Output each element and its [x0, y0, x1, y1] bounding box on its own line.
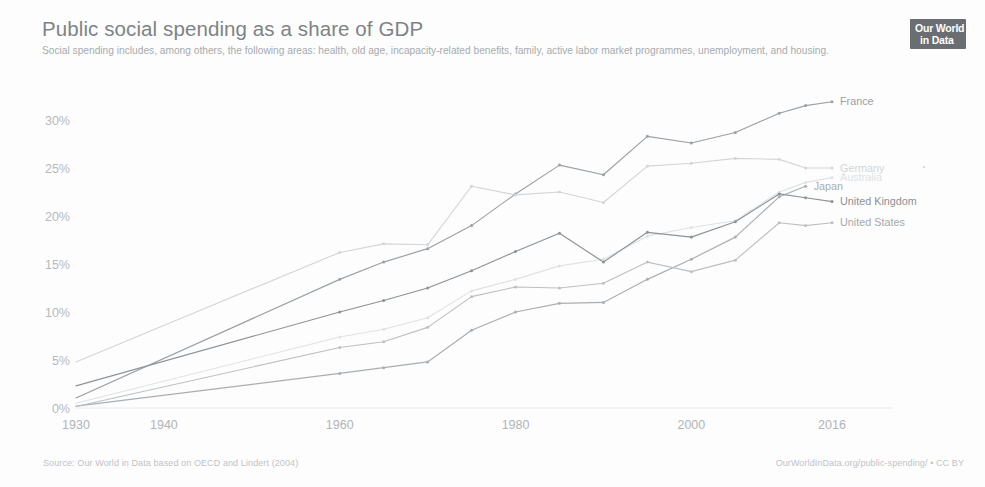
series-label-united-states[interactable]: United States [840, 216, 905, 228]
data-point-marker[interactable] [804, 224, 807, 227]
data-point-marker[interactable] [558, 264, 561, 267]
data-point-marker[interactable] [602, 258, 605, 261]
data-point-marker[interactable] [338, 251, 341, 254]
data-point-marker[interactable] [778, 192, 781, 195]
series-line-france[interactable] [76, 102, 832, 398]
data-point-marker[interactable] [804, 185, 807, 188]
data-point-marker[interactable] [778, 112, 781, 115]
data-point-marker[interactable] [426, 247, 429, 250]
data-point-marker[interactable] [778, 158, 781, 161]
data-point-marker[interactable] [646, 261, 649, 264]
data-point-marker[interactable] [602, 201, 605, 204]
data-point-marker[interactable] [470, 224, 473, 227]
data-point-marker[interactable] [382, 261, 385, 264]
data-point-marker[interactable] [558, 232, 561, 235]
data-point-marker[interactable] [382, 328, 385, 331]
data-point-marker[interactable] [831, 221, 834, 224]
series-line-japan[interactable] [76, 186, 806, 406]
x-axis-tick-label: 1940 [150, 418, 178, 432]
y-axis-tick-label: 25% [45, 162, 70, 176]
data-point-marker[interactable] [831, 200, 834, 203]
data-point-marker[interactable] [426, 326, 429, 329]
data-point-marker[interactable] [690, 226, 693, 229]
data-point-marker[interactable] [804, 167, 807, 170]
data-point-marker[interactable] [804, 104, 807, 107]
x-axis-tick-label: 1960 [326, 418, 354, 432]
data-point-marker[interactable] [426, 287, 429, 290]
x-axis: 193019401960198020002016 [62, 418, 846, 432]
data-point-marker[interactable] [734, 236, 737, 239]
y-axis-tick-label: 5% [52, 354, 70, 368]
series-line-germany[interactable] [76, 158, 832, 362]
series-label-germany[interactable]: Germany [840, 162, 885, 174]
data-point-marker[interactable] [338, 346, 341, 349]
x-axis-tick-label: 1980 [502, 418, 530, 432]
data-point-marker[interactable] [470, 269, 473, 272]
data-point-marker[interactable] [690, 236, 693, 239]
data-point-marker[interactable] [831, 167, 834, 170]
data-point-marker[interactable] [338, 278, 341, 281]
data-point-marker[interactable] [426, 243, 429, 246]
data-point-marker[interactable] [734, 157, 737, 160]
data-point-marker[interactable] [382, 299, 385, 302]
data-point-marker[interactable] [690, 258, 693, 261]
data-point-marker[interactable] [602, 173, 605, 176]
data-point-marker[interactable] [426, 360, 429, 363]
data-point-marker[interactable] [338, 335, 341, 338]
y-axis-tick-label: 30% [45, 114, 70, 128]
x-axis-tick-label: 1930 [62, 418, 90, 432]
data-point-marker[interactable] [426, 316, 429, 319]
data-point-marker[interactable] [690, 270, 693, 273]
data-point-marker[interactable] [831, 100, 834, 103]
series-line-australia[interactable] [76, 178, 832, 404]
data-point-marker[interactable] [804, 181, 807, 184]
data-point-marker[interactable] [646, 135, 649, 138]
data-point-marker[interactable] [734, 220, 737, 223]
series-line-united-kingdom[interactable] [76, 194, 832, 386]
chart-plot-area[interactable]: 0%5%10%15%20%25%30% 19301940196019802000… [0, 0, 985, 487]
data-point-marker[interactable] [646, 235, 649, 238]
data-point-marker[interactable] [690, 142, 693, 145]
data-point-marker[interactable] [470, 329, 473, 332]
data-point-marker[interactable] [778, 221, 781, 224]
data-point-marker[interactable] [382, 340, 385, 343]
line-chart-svg: 0%5%10%15%20%25%30% 19301940196019802000… [0, 0, 985, 487]
data-point-marker[interactable] [558, 164, 561, 167]
data-point-marker[interactable] [804, 196, 807, 199]
data-point-marker[interactable] [646, 165, 649, 168]
series-label-japan[interactable]: Japan [814, 180, 843, 192]
data-point-marker[interactable] [646, 231, 649, 234]
data-point-marker[interactable] [514, 250, 517, 253]
data-point-marker[interactable] [646, 278, 649, 281]
data-point-marker[interactable] [778, 195, 781, 198]
data-point-marker[interactable] [831, 176, 834, 179]
chart-page: Public social spending as a share of GDP… [0, 0, 985, 487]
data-point-marker[interactable] [514, 311, 517, 314]
data-point-marker[interactable] [690, 162, 693, 165]
data-point-marker[interactable] [734, 131, 737, 134]
data-point-marker[interactable] [470, 295, 473, 298]
series-label-united-kingdom[interactable]: United Kingdom [840, 195, 917, 207]
data-point-marker[interactable] [558, 191, 561, 194]
data-point-marker[interactable] [602, 261, 605, 264]
data-point-marker[interactable] [514, 193, 517, 196]
license-note[interactable]: OurWorldInData.org/public-spending/ • CC… [776, 458, 964, 468]
data-point-marker[interactable] [558, 287, 561, 290]
data-point-marker[interactable] [558, 302, 561, 305]
data-point-marker[interactable] [514, 286, 517, 289]
stray-speck [923, 166, 925, 168]
y-axis-tick-label: 10% [45, 306, 70, 320]
data-point-marker[interactable] [338, 311, 341, 314]
series-label-france[interactable]: France [840, 95, 874, 107]
data-point-marker[interactable] [470, 185, 473, 188]
data-point-marker[interactable] [602, 282, 605, 285]
data-point-marker[interactable] [514, 278, 517, 281]
series-labels: AustraliaFranceGermanyJapanUnited Kingdo… [814, 95, 917, 228]
data-point-marker[interactable] [382, 242, 385, 245]
data-point-marker[interactable] [382, 366, 385, 369]
source-note: Source: Our World in Data based on OECD … [43, 458, 298, 468]
data-point-marker[interactable] [734, 259, 737, 262]
data-point-marker[interactable] [338, 372, 341, 375]
data-point-marker[interactable] [470, 289, 473, 292]
data-point-marker[interactable] [602, 301, 605, 304]
